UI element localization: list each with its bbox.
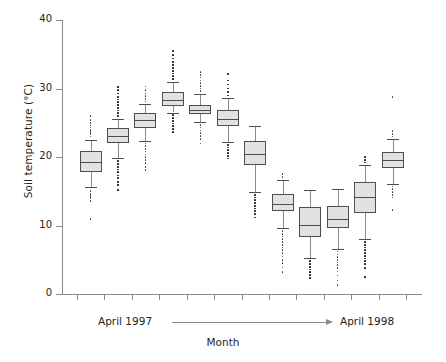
outlier-point	[392, 191, 394, 193]
x-tick	[132, 295, 133, 300]
outlier-point	[392, 136, 394, 138]
outlier-point	[392, 197, 394, 199]
outlier-point	[392, 188, 394, 190]
season-arrow-head	[326, 319, 333, 325]
outlier-point	[392, 194, 394, 196]
x-tick	[242, 295, 243, 300]
y-axis-title: Soil temperature (°C)	[22, 51, 34, 231]
y-tick-label: 10	[18, 219, 52, 230]
x-axis-title: Month	[0, 336, 446, 348]
y-tick-label: 20	[18, 150, 52, 161]
y-tick-label: 40	[18, 13, 52, 24]
whisker-cap-upper	[387, 139, 399, 140]
boxplot-figure: Soil temperature (°C) Month 010203040 Ap…	[0, 0, 446, 362]
x-tick	[296, 295, 297, 300]
x-tick	[104, 295, 105, 300]
outlier-point	[392, 209, 394, 211]
outlier-point	[392, 133, 394, 135]
y-tick	[56, 89, 62, 90]
y-tick	[56, 226, 62, 227]
season-end-label: April 1998	[340, 315, 394, 327]
outlier-point	[392, 96, 394, 98]
y-tick	[56, 157, 62, 158]
plot-area	[63, 20, 420, 294]
y-tick	[56, 294, 62, 295]
x-tick	[379, 295, 380, 300]
y-tick	[56, 20, 62, 21]
median-line	[382, 160, 404, 161]
y-tick-label: 0	[18, 287, 52, 298]
y-tick-label: 30	[18, 82, 52, 93]
x-tick	[214, 295, 215, 300]
x-tick	[159, 295, 160, 300]
season-start-label: April 1997	[98, 315, 152, 327]
x-tick	[406, 295, 407, 300]
x-tick	[269, 295, 270, 300]
whisker-cap-lower	[387, 184, 399, 185]
outlier-point	[392, 130, 394, 132]
box-group	[63, 20, 420, 294]
outlier-point	[392, 186, 394, 188]
x-tick	[324, 295, 325, 300]
season-arrow-line	[172, 322, 327, 323]
x-tick	[351, 295, 352, 300]
x-tick	[77, 295, 78, 300]
x-tick	[187, 295, 188, 300]
